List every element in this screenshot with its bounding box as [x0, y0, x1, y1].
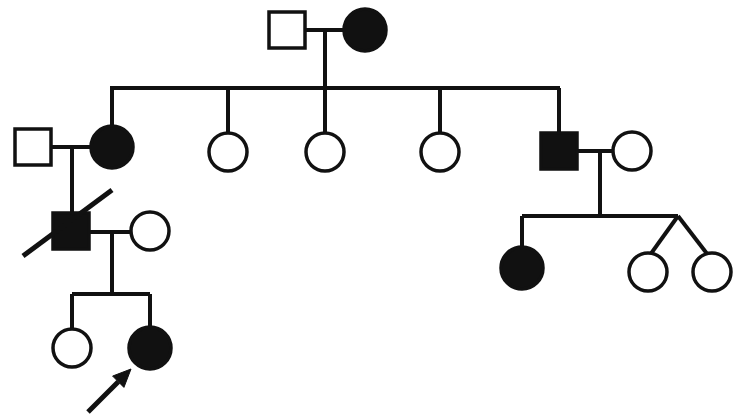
- twin-line-III-5: [678, 216, 708, 255]
- individual-II-1-male-unaffected[interactable]: [15, 129, 51, 165]
- individual-II-4-female-unaffected[interactable]: [306, 133, 344, 171]
- pedigree-canvas: [0, 0, 744, 420]
- generation-1-group: [269, 9, 386, 88]
- individual-IV-1-female-unaffected[interactable]: [53, 329, 91, 367]
- individual-II-2-female-affected[interactable]: [91, 126, 133, 168]
- generation-3-left-group: [23, 190, 169, 294]
- proband-arrow-group: [88, 369, 131, 412]
- sibship-line-gen2-group: [110, 88, 560, 133]
- individual-III-4-female-unaffected-twin[interactable]: [629, 253, 667, 291]
- individual-III-3-female-affected[interactable]: [501, 247, 543, 289]
- individual-I-2-female-affected[interactable]: [344, 9, 386, 51]
- individual-IV-2-female-affected-proband[interactable]: [129, 327, 171, 369]
- pedigree-figure: Family pedigree chart: [0, 0, 744, 420]
- individual-II-5-female-unaffected[interactable]: [421, 133, 459, 171]
- individual-III-5-female-unaffected-twin[interactable]: [693, 253, 731, 291]
- generation-4-group: [53, 294, 171, 369]
- individual-II-6-male-affected[interactable]: [541, 133, 577, 169]
- individual-II-7-female-unaffected[interactable]: [613, 132, 651, 170]
- individual-III-2-female-unaffected[interactable]: [131, 212, 169, 250]
- twin-line-III-4: [650, 216, 678, 255]
- individual-II-3-female-unaffected[interactable]: [209, 133, 247, 171]
- individual-I-1-male-unaffected[interactable]: [269, 12, 305, 48]
- proband-arrow-shaft: [88, 382, 118, 412]
- generation-3-right-group: [501, 216, 731, 291]
